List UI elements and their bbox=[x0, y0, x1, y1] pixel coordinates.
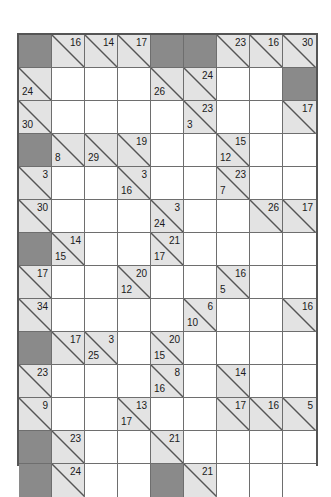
entry-cell[interactable] bbox=[118, 431, 151, 464]
entry-cell[interactable] bbox=[217, 332, 250, 365]
entry-cell[interactable] bbox=[151, 266, 184, 299]
across-clue: 16 bbox=[154, 384, 165, 394]
entry-cell[interactable] bbox=[85, 431, 118, 464]
entry-cell[interactable] bbox=[250, 101, 283, 134]
entry-cell[interactable] bbox=[85, 365, 118, 398]
entry-cell[interactable] bbox=[250, 464, 283, 497]
down-clue: 17 bbox=[235, 401, 246, 411]
clue-cell: 816 bbox=[151, 365, 184, 398]
entry-cell[interactable] bbox=[52, 200, 85, 233]
blocked-cell bbox=[19, 332, 52, 365]
entry-cell[interactable] bbox=[184, 233, 217, 266]
across-clue: 24 bbox=[154, 219, 165, 229]
entry-cell[interactable] bbox=[250, 167, 283, 200]
grid-row: 829191512 bbox=[19, 134, 316, 167]
entry-cell[interactable] bbox=[217, 233, 250, 266]
entry-cell[interactable] bbox=[184, 398, 217, 431]
entry-cell[interactable] bbox=[118, 332, 151, 365]
entry-cell[interactable] bbox=[184, 332, 217, 365]
clue-cell: 30 bbox=[19, 200, 52, 233]
entry-cell[interactable] bbox=[151, 299, 184, 332]
down-clue: 15 bbox=[235, 137, 246, 147]
entry-cell[interactable] bbox=[118, 464, 151, 497]
entry-cell[interactable] bbox=[217, 200, 250, 233]
clue-cell: 9 bbox=[19, 398, 52, 431]
entry-cell[interactable] bbox=[151, 398, 184, 431]
entry-cell[interactable] bbox=[283, 365, 316, 398]
entry-cell[interactable] bbox=[283, 332, 316, 365]
entry-cell[interactable] bbox=[217, 464, 250, 497]
down-clue: 9 bbox=[42, 401, 48, 411]
clue-cell: 24 bbox=[184, 68, 217, 101]
clue-cell: 16 bbox=[52, 35, 85, 68]
entry-cell[interactable] bbox=[250, 68, 283, 101]
grid-row: 2321 bbox=[19, 431, 316, 464]
grid-row: 2381614 bbox=[19, 365, 316, 398]
clue-cell: 2012 bbox=[118, 266, 151, 299]
entry-cell[interactable] bbox=[217, 101, 250, 134]
entry-cell[interactable] bbox=[52, 266, 85, 299]
entry-cell[interactable] bbox=[151, 167, 184, 200]
entry-cell[interactable] bbox=[283, 167, 316, 200]
entry-cell[interactable] bbox=[184, 266, 217, 299]
grid-row: 303242617 bbox=[19, 200, 316, 233]
entry-cell[interactable] bbox=[250, 365, 283, 398]
entry-cell[interactable] bbox=[85, 464, 118, 497]
entry-cell[interactable] bbox=[52, 398, 85, 431]
across-clue: 15 bbox=[154, 351, 165, 361]
entry-cell[interactable] bbox=[184, 365, 217, 398]
entry-cell[interactable] bbox=[151, 101, 184, 134]
clue-cell: 5 bbox=[283, 398, 316, 431]
entry-cell[interactable] bbox=[283, 464, 316, 497]
entry-cell[interactable] bbox=[250, 332, 283, 365]
entry-cell[interactable] bbox=[52, 299, 85, 332]
entry-cell[interactable] bbox=[85, 200, 118, 233]
entry-cell[interactable] bbox=[283, 266, 316, 299]
down-clue: 13 bbox=[136, 401, 147, 411]
entry-cell[interactable] bbox=[217, 68, 250, 101]
across-clue: 25 bbox=[88, 351, 99, 361]
entry-cell[interactable] bbox=[118, 68, 151, 101]
down-clue: 14 bbox=[235, 368, 246, 378]
entry-cell[interactable] bbox=[118, 233, 151, 266]
entry-cell[interactable] bbox=[85, 101, 118, 134]
entry-cell[interactable] bbox=[283, 134, 316, 167]
entry-cell[interactable] bbox=[250, 233, 283, 266]
entry-cell[interactable] bbox=[217, 299, 250, 332]
across-clue: 10 bbox=[187, 318, 198, 328]
blocked-cell bbox=[19, 464, 52, 497]
kakuro-grid[interactable]: 1614172316302426243023317829191512331623… bbox=[17, 33, 318, 466]
entry-cell[interactable] bbox=[118, 101, 151, 134]
entry-cell[interactable] bbox=[151, 134, 184, 167]
entry-cell[interactable] bbox=[85, 233, 118, 266]
entry-cell[interactable] bbox=[250, 431, 283, 464]
entry-cell[interactable] bbox=[85, 266, 118, 299]
entry-cell[interactable] bbox=[85, 68, 118, 101]
entry-cell[interactable] bbox=[85, 299, 118, 332]
entry-cell[interactable] bbox=[52, 68, 85, 101]
entry-cell[interactable] bbox=[250, 266, 283, 299]
entry-cell[interactable] bbox=[184, 134, 217, 167]
entry-cell[interactable] bbox=[250, 134, 283, 167]
entry-cell[interactable] bbox=[118, 200, 151, 233]
across-clue: 3 bbox=[187, 120, 193, 130]
clue-cell: 24 bbox=[19, 68, 52, 101]
entry-cell[interactable] bbox=[184, 167, 217, 200]
entry-cell[interactable] bbox=[184, 200, 217, 233]
entry-cell[interactable] bbox=[184, 431, 217, 464]
entry-cell[interactable] bbox=[85, 167, 118, 200]
entry-cell[interactable] bbox=[250, 299, 283, 332]
entry-cell[interactable] bbox=[52, 101, 85, 134]
entry-cell[interactable] bbox=[52, 167, 85, 200]
entry-cell[interactable] bbox=[283, 431, 316, 464]
down-clue: 17 bbox=[302, 203, 313, 213]
grid-row: 3023317 bbox=[19, 101, 316, 134]
entry-cell[interactable] bbox=[217, 431, 250, 464]
clue-cell: 17 bbox=[118, 35, 151, 68]
entry-cell[interactable] bbox=[118, 365, 151, 398]
entry-cell[interactable] bbox=[52, 365, 85, 398]
clue-cell: 16 bbox=[250, 398, 283, 431]
entry-cell[interactable] bbox=[118, 299, 151, 332]
entry-cell[interactable] bbox=[85, 398, 118, 431]
entry-cell[interactable] bbox=[283, 233, 316, 266]
